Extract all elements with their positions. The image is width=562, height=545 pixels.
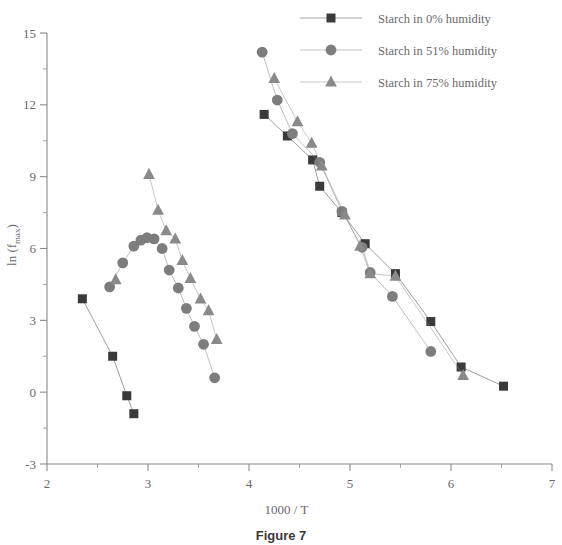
data-point-circle bbox=[272, 95, 283, 106]
x-tick-label: 7 bbox=[549, 476, 556, 491]
data-point-circle bbox=[209, 372, 220, 383]
data-point-triangle bbox=[292, 115, 304, 126]
data-point-triangle bbox=[160, 224, 172, 235]
data-point-square bbox=[122, 391, 131, 400]
data-point-square bbox=[260, 110, 269, 119]
series-0 bbox=[78, 294, 139, 418]
data-point-circle bbox=[198, 339, 209, 350]
x-axis-title: 1000 / T bbox=[265, 502, 309, 517]
x-tick-label: 6 bbox=[448, 476, 455, 491]
figure-root: 234567-3036912151000 / Tln (fmax) Starch… bbox=[0, 0, 562, 545]
series-line bbox=[274, 78, 463, 375]
data-point-circle bbox=[189, 321, 200, 332]
data-point-triangle bbox=[110, 273, 122, 284]
x-tick-label: 2 bbox=[44, 476, 51, 491]
data-point-triangle bbox=[211, 333, 223, 344]
y-tick-label: 15 bbox=[23, 26, 36, 41]
y-tick-label: 9 bbox=[30, 169, 37, 184]
data-point-circle bbox=[173, 283, 184, 294]
series-4 bbox=[110, 273, 122, 284]
data-point-circle bbox=[257, 47, 268, 58]
x-tick-label: 5 bbox=[347, 476, 354, 491]
y-axis-title: ln (fmax) bbox=[4, 224, 22, 266]
legend-item-0: Starch in 0% humidity bbox=[300, 12, 492, 26]
data-point-square bbox=[129, 409, 138, 418]
data-point-triangle bbox=[325, 76, 337, 87]
y-tick-label: -3 bbox=[25, 457, 36, 472]
legend-layer: Starch in 0% humidityStarch in 51% humid… bbox=[300, 12, 498, 90]
x-tick-label: 3 bbox=[145, 476, 152, 491]
figure-caption: Figure 7 bbox=[0, 528, 562, 543]
svg-text:ln (fmax): ln (fmax) bbox=[4, 224, 22, 266]
series-2 bbox=[104, 232, 220, 383]
data-point-triangle bbox=[195, 292, 207, 303]
data-point-triangle bbox=[185, 272, 197, 283]
data-point-triangle bbox=[143, 168, 155, 179]
data-point-circle bbox=[287, 128, 298, 139]
legend-label: Starch in 51% humidity bbox=[378, 44, 498, 58]
y-tick-label: 0 bbox=[30, 385, 37, 400]
y-tick-label: 3 bbox=[30, 313, 37, 328]
legend-label: Starch in 0% humidity bbox=[378, 12, 492, 26]
data-point-square bbox=[499, 382, 508, 391]
data-point-triangle bbox=[152, 204, 164, 215]
data-point-circle bbox=[149, 234, 160, 245]
legend-item-2: Starch in 75% humidity bbox=[300, 76, 498, 90]
y-tick-label: 6 bbox=[30, 241, 37, 256]
legend-item-1: Starch in 51% humidity bbox=[300, 44, 498, 58]
data-point-triangle bbox=[203, 304, 215, 315]
series-1 bbox=[260, 110, 508, 391]
data-point-circle bbox=[181, 303, 192, 314]
series-5 bbox=[143, 168, 222, 344]
data-point-circle bbox=[425, 346, 436, 357]
data-point-square bbox=[315, 182, 324, 191]
data-point-circle bbox=[157, 243, 168, 254]
scatter-plot: 234567-3036912151000 / Tln (fmax) Starch… bbox=[0, 0, 562, 545]
data-point-triangle bbox=[306, 137, 318, 148]
data-point-square bbox=[327, 14, 336, 23]
data-point-triangle bbox=[176, 254, 188, 265]
data-point-square bbox=[78, 294, 87, 303]
data-point-circle bbox=[117, 257, 128, 268]
data-point-circle bbox=[326, 45, 337, 56]
data-point-circle bbox=[387, 291, 398, 302]
series-layer bbox=[78, 47, 508, 418]
data-point-square bbox=[108, 352, 117, 361]
legend-label: Starch in 75% humidity bbox=[378, 76, 498, 90]
y-tick-label: 12 bbox=[23, 97, 36, 112]
x-tick-label: 4 bbox=[246, 476, 253, 491]
data-point-circle bbox=[164, 265, 175, 276]
series-line bbox=[264, 114, 503, 386]
data-point-square bbox=[426, 317, 435, 326]
series-line bbox=[262, 52, 431, 351]
series-3 bbox=[257, 47, 436, 357]
